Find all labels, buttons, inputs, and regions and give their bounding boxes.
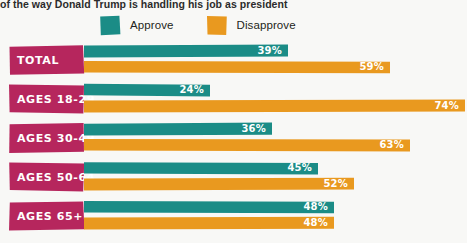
bar-disapprove[interactable]: 63% <box>84 138 410 152</box>
chart-legend: Approve Disapprove <box>99 13 296 37</box>
chart-rows: TOTAL 39% 59% <box>0 42 467 237</box>
category-label-box: AGES 50-64 <box>8 161 85 193</box>
approval-rating-bar-chart: of the way Donald Trump is handling his … <box>0 0 467 243</box>
table-row: AGES 18-29 24% 74% <box>0 81 467 120</box>
row-bars: 39% 59% <box>84 42 467 81</box>
row-bars: 36% 63% <box>84 120 467 159</box>
bar-value-disapprove: 59% <box>359 62 384 72</box>
bar-approve[interactable]: 48% <box>84 200 334 214</box>
bar-value-disapprove: 48% <box>303 218 328 228</box>
bar-approve[interactable]: 45% <box>84 161 318 175</box>
bar-value-disapprove: 63% <box>379 140 404 150</box>
category-label-text: AGES 50-64 <box>8 161 85 193</box>
bar-value-approve: 39% <box>257 46 282 56</box>
category-label-text: AGES 18-29 <box>8 83 85 115</box>
table-row: TOTAL 39% 59% <box>0 42 467 81</box>
table-row: AGES 65+ 48% 48% <box>0 198 467 237</box>
bar-value-disapprove: 52% <box>323 179 348 189</box>
bar-approve[interactable]: 36% <box>84 122 272 136</box>
legend-label-disapprove: Disapprove <box>237 19 296 31</box>
bar-value-disapprove: 74% <box>434 101 459 111</box>
bar-disapprove[interactable]: 74% <box>84 99 465 113</box>
chart-subtitle: of the way Donald Trump is handling his … <box>0 0 420 10</box>
bar-approve[interactable]: 39% <box>84 44 288 58</box>
square-swatch-teal-icon <box>99 15 121 36</box>
row-bars: 45% 52% <box>84 159 467 198</box>
category-label-text: TOTAL <box>8 44 85 76</box>
category-label-box: AGES 30-49 <box>8 122 85 154</box>
bar-disapprove[interactable]: 48% <box>84 216 334 230</box>
category-label-box: AGES 18-29 <box>8 83 85 115</box>
legend-item-disapprove[interactable]: Disapprove <box>206 15 296 36</box>
row-bars: 48% 48% <box>84 198 467 237</box>
category-label-text: AGES 30-49 <box>8 122 85 154</box>
table-row: AGES 50-64 45% 52% <box>0 159 467 198</box>
bar-disapprove[interactable]: 52% <box>84 177 354 191</box>
legend-label-approve: Approve <box>130 19 174 31</box>
category-label-text: AGES 65+ <box>8 200 85 232</box>
row-bars: 24% 74% <box>84 81 467 120</box>
category-label-box: TOTAL <box>8 44 85 76</box>
bar-disapprove[interactable]: 59% <box>84 60 390 74</box>
bar-value-approve: 48% <box>303 202 328 212</box>
table-row: AGES 30-49 36% 63% <box>0 120 467 159</box>
legend-item-approve[interactable]: Approve <box>99 15 174 36</box>
category-label-box: AGES 65+ <box>8 200 85 232</box>
bar-value-approve: 24% <box>179 85 204 95</box>
square-swatch-orange-icon <box>206 15 228 36</box>
bar-value-approve: 45% <box>287 163 312 173</box>
bar-value-approve: 36% <box>241 124 266 134</box>
bar-approve[interactable]: 24% <box>84 83 210 97</box>
